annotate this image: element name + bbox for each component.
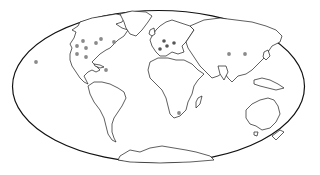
location-marker-asia — [243, 52, 247, 56]
location-marker-north-america — [81, 39, 85, 43]
tasmania-landmass — [254, 132, 258, 136]
location-marker-north-america — [99, 37, 103, 41]
location-marker-north-america — [94, 41, 98, 45]
location-marker-europe — [162, 39, 166, 43]
location-marker-europe — [165, 44, 169, 48]
world-map — [0, 0, 320, 175]
location-marker-north-america — [75, 52, 79, 56]
location-marker-north-america — [84, 46, 88, 50]
location-marker-north-america — [112, 40, 116, 44]
location-marker-north-america — [104, 68, 108, 72]
location-marker-north-america — [84, 55, 88, 59]
location-marker-asia — [227, 52, 231, 56]
location-marker-pacific-hawaii — [34, 60, 38, 64]
location-marker-europe — [158, 47, 162, 51]
location-marker-north-america — [75, 44, 79, 48]
location-marker-southern-africa — [177, 111, 181, 115]
location-marker-europe — [172, 41, 176, 45]
